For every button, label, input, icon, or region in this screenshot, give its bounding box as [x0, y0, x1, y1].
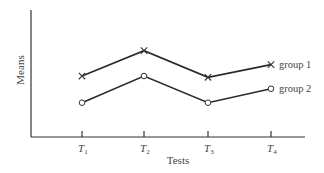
series-group-2: group 2	[79, 73, 311, 105]
series-label: group 2	[279, 83, 311, 94]
y-axis-title: Means	[14, 55, 26, 84]
circle-marker-icon	[79, 100, 85, 106]
circle-marker-icon	[268, 86, 274, 92]
x-tick-label-t1: T1	[78, 142, 88, 156]
x-tick-label-t2: T2	[140, 142, 150, 156]
series-line	[82, 51, 271, 78]
x-marker-icon	[79, 73, 85, 79]
x-marker-icon	[141, 47, 147, 53]
series-label: group 1	[279, 59, 311, 70]
series-line	[82, 76, 271, 103]
interaction-line-chart: T1T2T3T4 group 1group 2 Tests Means	[0, 0, 324, 173]
x-axis-title: Tests	[167, 154, 189, 166]
circle-marker-icon	[141, 73, 147, 79]
x-tick-label-t3: T3	[204, 142, 214, 156]
x-axis-ticks	[82, 131, 271, 137]
circle-marker-icon	[205, 100, 211, 106]
x-tick-label-t4: T4	[267, 142, 277, 156]
series-group-1: group 1	[79, 47, 312, 80]
series-layer: group 1group 2	[79, 47, 312, 105]
